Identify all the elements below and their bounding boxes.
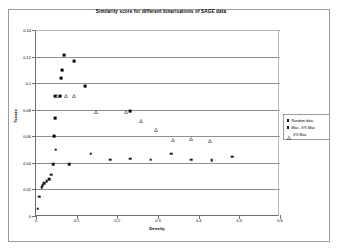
screenshot-root: Similarity score for different binarisat… bbox=[0, 0, 339, 251]
data-point-triangle bbox=[72, 94, 76, 98]
y-tick bbox=[32, 189, 36, 190]
data-point-triangle bbox=[55, 94, 59, 98]
data-point-square bbox=[231, 156, 234, 159]
data-point-square bbox=[129, 110, 132, 113]
gridline bbox=[36, 189, 280, 190]
data-point-triangle bbox=[94, 110, 98, 114]
x-tick-label: 0.5 bbox=[237, 218, 243, 223]
legend-entry: Max - X% Max bbox=[286, 124, 327, 131]
y-tick-label: 0.12 bbox=[23, 54, 31, 59]
data-point-square bbox=[170, 153, 173, 156]
data-point-square bbox=[38, 195, 41, 198]
y-tick bbox=[32, 110, 36, 111]
chart-legend: Random dataMax - X% MaxX% Max bbox=[283, 114, 330, 140]
x-tick-label: 0 bbox=[35, 218, 37, 223]
legend-marker-triangle-icon bbox=[287, 126, 291, 144]
y-tick-label: 0.02 bbox=[23, 187, 31, 192]
y-tick-label: 0 bbox=[29, 214, 31, 219]
legend-marker-square-icon bbox=[287, 119, 289, 121]
y-tick bbox=[32, 30, 36, 31]
data-point-square bbox=[50, 174, 53, 177]
data-point-square bbox=[129, 157, 132, 160]
gridline bbox=[36, 83, 280, 84]
y-tick bbox=[32, 83, 36, 84]
data-point-square bbox=[59, 94, 62, 97]
data-point-triangle bbox=[124, 110, 128, 114]
x-tick-label: 0.3 bbox=[155, 218, 161, 223]
x-tick-label: 0.6 bbox=[277, 218, 283, 223]
data-point-square bbox=[90, 153, 93, 156]
data-point-square bbox=[61, 68, 64, 71]
data-point-square bbox=[52, 163, 55, 166]
y-axis-title: Tscore bbox=[13, 109, 18, 123]
data-point-square bbox=[190, 158, 193, 161]
x-axis-title: Density bbox=[35, 226, 279, 231]
legend-label: Max - X% Max bbox=[291, 126, 314, 130]
y-tick-label: 0.14 bbox=[23, 28, 31, 33]
data-point-square bbox=[68, 163, 71, 166]
data-point-square bbox=[149, 158, 152, 161]
data-point-triangle bbox=[154, 128, 158, 132]
data-point-square bbox=[52, 135, 55, 138]
gridline bbox=[36, 30, 280, 31]
gridline bbox=[36, 110, 280, 111]
gridline bbox=[36, 163, 280, 164]
legend-label: X% Max bbox=[293, 133, 306, 137]
data-point-square bbox=[63, 54, 66, 57]
data-point-square bbox=[210, 159, 213, 162]
chart-title: Similarity score for different binarisat… bbox=[0, 9, 322, 14]
gridline bbox=[36, 136, 280, 137]
data-point-square bbox=[109, 158, 112, 161]
data-point-square bbox=[43, 182, 46, 185]
data-point-square bbox=[54, 148, 57, 151]
y-tick bbox=[32, 136, 36, 137]
data-point-square bbox=[73, 60, 76, 63]
data-point-triangle bbox=[189, 137, 193, 141]
y-tick-label: 0.08 bbox=[23, 107, 31, 112]
data-point-triangle bbox=[171, 138, 175, 142]
x-tick-label: 0.1 bbox=[74, 218, 80, 223]
data-point-square bbox=[48, 178, 51, 181]
data-point-square bbox=[36, 207, 39, 210]
y-tick-label: 0.1 bbox=[25, 81, 31, 86]
legend-label: Random data bbox=[291, 119, 313, 123]
y-tick bbox=[32, 57, 36, 58]
legend-entry: Random data bbox=[286, 117, 327, 124]
y-tick-label: 0.04 bbox=[23, 160, 31, 165]
legend-entry: X% Max bbox=[286, 131, 327, 138]
y-tick bbox=[32, 163, 36, 164]
data-point-triangle bbox=[64, 94, 68, 98]
data-point-square bbox=[83, 85, 86, 88]
data-point-triangle bbox=[139, 119, 143, 123]
x-tick-label: 0.2 bbox=[115, 218, 121, 223]
x-tick-label: 0.4 bbox=[196, 218, 202, 223]
plot-area: 00.020.040.060.080.10.120.14 00.10.20.30… bbox=[35, 30, 279, 216]
data-point-square bbox=[53, 117, 56, 120]
gridline bbox=[36, 57, 280, 58]
data-point-triangle bbox=[208, 139, 212, 143]
data-point-square bbox=[60, 76, 63, 79]
y-tick-label: 0.06 bbox=[23, 134, 31, 139]
